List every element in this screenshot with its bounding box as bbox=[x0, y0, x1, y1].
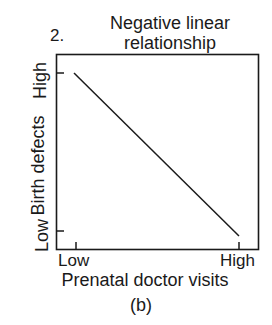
y-tick-label-high: High bbox=[30, 62, 51, 99]
figure-caption: (b) bbox=[130, 295, 152, 316]
x-tick-label-low: Low bbox=[58, 251, 89, 271]
plot-frame bbox=[57, 55, 259, 250]
x-axis-label: Prenatal doctor visits bbox=[40, 270, 250, 291]
data-line bbox=[74, 73, 239, 236]
x-tick-label-high: High bbox=[220, 251, 255, 271]
y-axis-label: Birth defects bbox=[28, 106, 49, 226]
